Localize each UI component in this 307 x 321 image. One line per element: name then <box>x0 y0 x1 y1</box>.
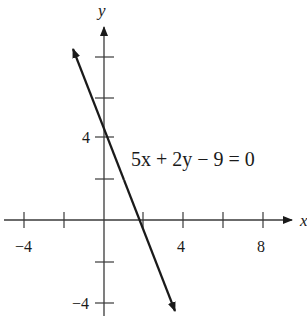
x-axis-label: x <box>299 211 307 230</box>
coordinate-plane: y x −4 4 8 4 −4 5x + 2y − 9 = 0 <box>0 0 307 321</box>
y-axis-label: y <box>96 1 106 20</box>
y-tick-label-neg4: −4 <box>72 295 89 312</box>
y-tick-label-4: 4 <box>82 129 90 146</box>
x-tick-label-8: 8 <box>257 238 265 255</box>
x-tick-label-4: 4 <box>177 238 185 255</box>
x-tick-label-neg4: −4 <box>15 238 32 255</box>
equation-label: 5x + 2y − 9 = 0 <box>131 148 255 171</box>
equation-line <box>73 49 175 311</box>
